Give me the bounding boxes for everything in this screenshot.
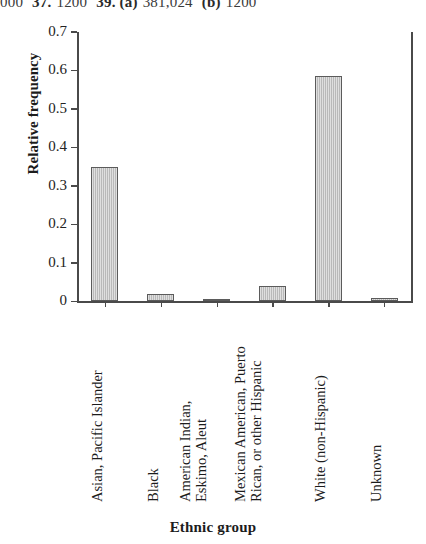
y-tick-label: 0.4: [48, 139, 67, 154]
y-axis-title: Relative frequency: [25, 24, 42, 204]
x-tick-mark: [384, 301, 385, 307]
bar: [315, 76, 342, 301]
x-tick-mark: [272, 301, 273, 307]
y-tick-mark: [71, 31, 77, 32]
y-tick-label: 0.2: [48, 216, 67, 231]
x-axis-title: Ethnic group: [0, 519, 426, 536]
plot-area: 0.70.60.50.40.30.20.10: [77, 32, 412, 303]
x-tick-mark: [161, 301, 162, 307]
bar: [259, 286, 286, 301]
y-tick-mark: [71, 224, 77, 225]
y-tick-mark: [71, 185, 77, 186]
x-category-label-line: Unknown: [368, 445, 384, 502]
x-category-label-line: Mexican American, Puerto: [232, 346, 248, 502]
x-category-label-line: Rican, or other Hispanic: [248, 346, 264, 502]
y-tick-mark: [71, 147, 77, 148]
y-tick-label: 0.1: [48, 255, 67, 270]
bar: [91, 167, 118, 302]
x-category-label-line: Eskimo, Aleut: [193, 401, 209, 502]
bar: [147, 294, 174, 301]
y-tick-mark: [71, 262, 77, 263]
x-category-label-line: American Indian,: [177, 401, 193, 502]
plot-right-border: [411, 32, 413, 303]
bar-chart-figure: Relative frequency 0.70.60.50.40.30.20.1…: [0, 0, 426, 544]
y-tick-label: 0.7: [48, 24, 67, 39]
x-category-label-line: White (non-Hispanic): [312, 375, 328, 502]
y-tick-label: 0: [60, 293, 68, 308]
x-tick-mark: [217, 301, 218, 307]
x-axis-line: [77, 301, 413, 303]
y-tick-mark: [71, 70, 77, 71]
y-tick-mark: [71, 108, 77, 109]
y-tick-label: 0.5: [48, 101, 67, 116]
y-tick-label: 0.6: [48, 62, 67, 77]
x-category-label-line: Black: [145, 468, 161, 502]
y-tick-mark: [71, 301, 77, 302]
x-tick-mark: [105, 301, 106, 307]
y-tick-label: 0.3: [48, 178, 67, 193]
x-category-label-line: Asian, Pacific Islander: [89, 370, 105, 502]
x-tick-mark: [328, 301, 329, 307]
y-axis-line: [77, 32, 79, 303]
